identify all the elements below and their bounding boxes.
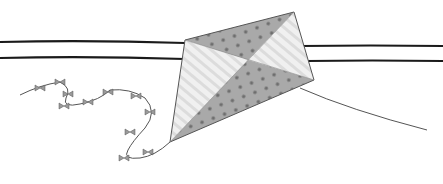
tail-bows bbox=[35, 79, 155, 161]
kite-illustration bbox=[0, 0, 443, 184]
kite-drawing bbox=[0, 0, 443, 184]
kite-tail bbox=[20, 82, 170, 158]
kite-string bbox=[300, 88, 427, 130]
kite bbox=[170, 12, 314, 142]
